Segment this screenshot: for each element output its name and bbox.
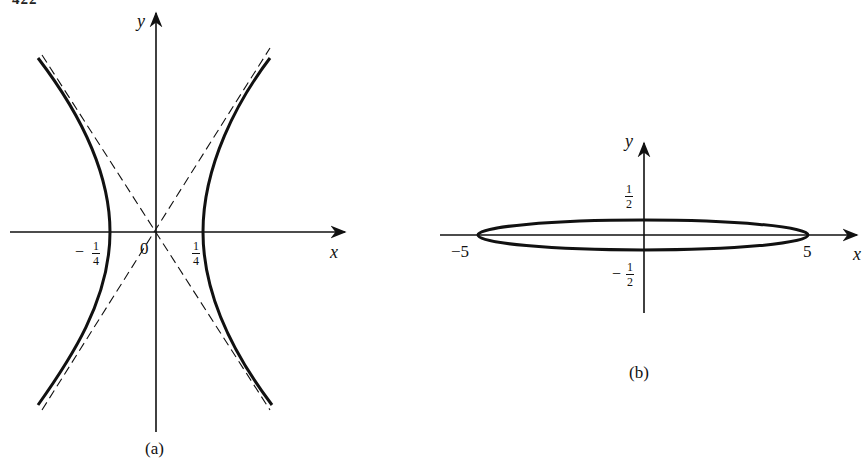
caption-b: (b) bbox=[629, 364, 649, 381]
tick-y-top-den: 2 bbox=[626, 198, 632, 210]
panel-b bbox=[440, 143, 857, 313]
tick-left-den: 4 bbox=[93, 255, 99, 267]
tick-y-bottom-num: 1 bbox=[627, 261, 633, 273]
tick-y-top-num: 1 bbox=[626, 183, 632, 195]
tick-x-right-b: 5 bbox=[803, 243, 812, 260]
tick-right-den: 4 bbox=[193, 255, 199, 267]
tick-x-left-b: −5 bbox=[451, 243, 469, 260]
tick-right-num: 1 bbox=[193, 240, 199, 252]
tick-y-bottom-sign: − bbox=[612, 265, 621, 283]
tick-left-sign: − bbox=[75, 243, 84, 261]
panel-a bbox=[10, 13, 345, 432]
tick-left-num: 1 bbox=[93, 240, 99, 252]
x-axis-label-b: x bbox=[853, 245, 861, 263]
figure-canvas bbox=[0, 0, 868, 469]
tick-y-bottom-den: 2 bbox=[627, 276, 633, 288]
origin-label: 0 bbox=[140, 240, 149, 257]
tick-y-top-b: 1 2 bbox=[625, 183, 633, 210]
y-axis-label-b: y bbox=[625, 132, 633, 150]
caption-a: (a) bbox=[145, 440, 164, 457]
tick-y-bottom-b: 1 2 bbox=[626, 261, 634, 288]
x-axis-label-a: x bbox=[330, 243, 338, 261]
tick-right-a: 1 4 bbox=[192, 240, 200, 267]
y-axis-label-a: y bbox=[137, 12, 145, 30]
tick-left-a: 1 4 bbox=[92, 240, 100, 267]
